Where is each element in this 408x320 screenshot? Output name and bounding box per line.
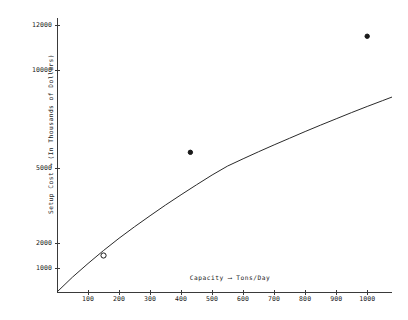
chart-canvas: 1000200050001000012000 10020030040050060… [0,0,408,320]
data-point-markers [101,34,369,258]
data-point-filled [188,150,192,154]
data-point-open [101,253,106,258]
data-point-filled [365,34,369,38]
setup-cost-curve [57,97,392,292]
plot-area [0,0,408,320]
